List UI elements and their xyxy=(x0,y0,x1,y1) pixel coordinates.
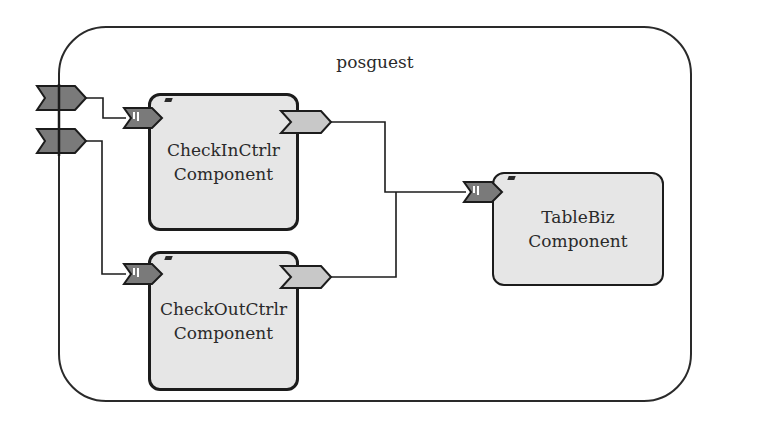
checkout-reference-port xyxy=(281,266,331,288)
checkout-service-port xyxy=(124,264,162,284)
wire-checkin-to-tablebiz xyxy=(331,122,466,192)
sca-composite-diagram: posguest CheckInCtrlr Component CheckOut… xyxy=(0,0,761,426)
composite-service-port-1 xyxy=(37,86,86,110)
checkin-service-port xyxy=(124,108,162,128)
tablebiz-service-port xyxy=(464,182,502,202)
composite-service-port-2 xyxy=(37,129,86,153)
wire-service2-to-checkout xyxy=(86,141,126,274)
wire-checkout-to-tablebiz xyxy=(331,192,396,277)
wire-service1-to-checkin xyxy=(86,98,126,118)
checkin-reference-port xyxy=(281,111,331,133)
wires-and-ports xyxy=(0,0,761,426)
service-port-glyphs xyxy=(133,112,479,277)
